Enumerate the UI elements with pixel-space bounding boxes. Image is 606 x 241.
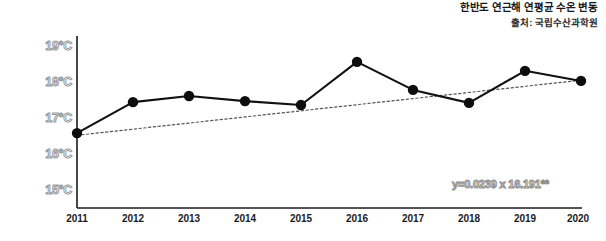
data-point-2014: [240, 96, 250, 106]
x-tick-2012: 2012: [122, 213, 144, 224]
data-point-2017: [408, 85, 418, 95]
x-tick-2015: 2015: [290, 213, 312, 224]
data-point-2012: [128, 97, 138, 107]
plot-area: [0, 0, 606, 241]
data-point-2019: [520, 66, 530, 76]
data-point-2018: [464, 98, 474, 108]
chart-screenshot: 한반도 연근해 연평균 수온 변동 출처: 국립수산과학원 19°C 18°C …: [0, 0, 606, 241]
x-tick-2013: 2013: [178, 213, 200, 224]
data-point-2011: [72, 128, 82, 138]
data-point-2015: [296, 100, 306, 110]
x-tick-2017: 2017: [402, 213, 424, 224]
series-markers: [72, 57, 586, 139]
x-tick-2020: 2020: [567, 213, 589, 224]
trend-line: [77, 80, 581, 135]
x-axis-tick-labels: 2011 2012 2013 2014 2015 2016 2017 2018 …: [0, 213, 606, 231]
data-point-2016: [352, 57, 362, 67]
data-point-2020: [576, 76, 586, 86]
x-tick-2019: 2019: [514, 213, 536, 224]
x-tick-2018: 2018: [458, 213, 480, 224]
data-point-2013: [184, 91, 194, 101]
x-tick-2011: 2011: [66, 213, 87, 224]
series-line-water-temp: [77, 62, 581, 133]
x-tick-2014: 2014: [234, 213, 256, 224]
regression-equation-label: y=0.0239 x 16.191**: [452, 178, 549, 190]
x-tick-2016: 2016: [346, 213, 368, 224]
